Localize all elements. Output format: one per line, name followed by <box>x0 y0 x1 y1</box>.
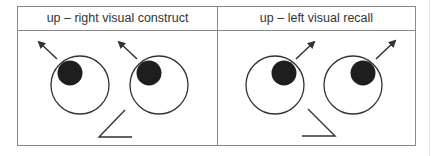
right-eye-icon <box>119 42 188 114</box>
face-diagrams <box>0 0 434 156</box>
right-eye-icon <box>324 41 395 114</box>
nose-mouth-icon <box>302 109 335 136</box>
face-visual-construct <box>39 42 188 137</box>
left-eye-icon <box>246 42 314 114</box>
nose-mouth-icon <box>99 110 132 137</box>
left-eye-icon <box>39 42 109 114</box>
face-visual-recall <box>246 41 395 136</box>
